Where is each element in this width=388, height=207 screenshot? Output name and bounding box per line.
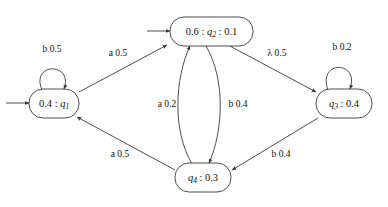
state-q1-prefix: 0.4 : bbox=[39, 98, 60, 109]
state-q4-suffix: : 0.3 bbox=[197, 172, 218, 183]
state-node-q4[interactable]: q4 : 0.3 bbox=[175, 163, 231, 192]
transition-q4-q2 bbox=[178, 46, 192, 164]
transition-label-q3-q4: b 0.4 bbox=[272, 149, 291, 159]
svg-text:0.6 : q2 : 0.1: 0.6 : q2 : 0.1 bbox=[186, 26, 238, 39]
state-node-q1[interactable]: 0.4 : q1 bbox=[29, 89, 79, 118]
state-node-q3[interactable]: q3 : 0.4 bbox=[316, 89, 372, 118]
transition-label-q4-q1: a 0.5 bbox=[111, 149, 130, 159]
state-q3-suffix: : 0.4 bbox=[338, 98, 360, 109]
transition-label-q1-q1: b 0.5 bbox=[43, 44, 62, 54]
state-diagram: 0.4 : q1 0.6 : q2 : 0.1 q3 : 0.4 q4 : 0.… bbox=[0, 0, 388, 207]
transition-q4-q1 bbox=[77, 117, 175, 170]
transition-q3-q3 bbox=[326, 67, 351, 90]
transition-label-q3-q3: b 0.2 bbox=[333, 42, 352, 52]
state-node-q2[interactable]: 0.6 : q2 : 0.1 bbox=[170, 17, 253, 46]
automaton-canvas: 0.4 : q1 0.6 : q2 : 0.1 q3 : 0.4 q4 : 0.… bbox=[0, 0, 388, 207]
transition-q1-q1 bbox=[40, 69, 66, 90]
transition-label-q4-q2: a 0.2 bbox=[158, 99, 177, 109]
transition-q3-q4 bbox=[232, 118, 318, 170]
state-q2-prefix: 0.6 : bbox=[186, 26, 207, 37]
svg-text:q3 : 0.4: q3 : 0.4 bbox=[329, 98, 360, 111]
state-q2-suffix: : 0.1 bbox=[216, 26, 237, 37]
transition-label-q1-q2: a 0.5 bbox=[109, 48, 128, 58]
svg-text:0.4 : q1: 0.4 : q1 bbox=[39, 98, 69, 111]
transition-label-q2-q4: b 0.4 bbox=[229, 99, 248, 109]
state-q1-subscript: 1 bbox=[65, 102, 69, 111]
transition-label-q2-q3: λ 0.5 bbox=[268, 48, 287, 58]
transition-q2-q4 bbox=[206, 46, 220, 163]
svg-text:q4 : 0.3: q4 : 0.3 bbox=[188, 172, 218, 185]
